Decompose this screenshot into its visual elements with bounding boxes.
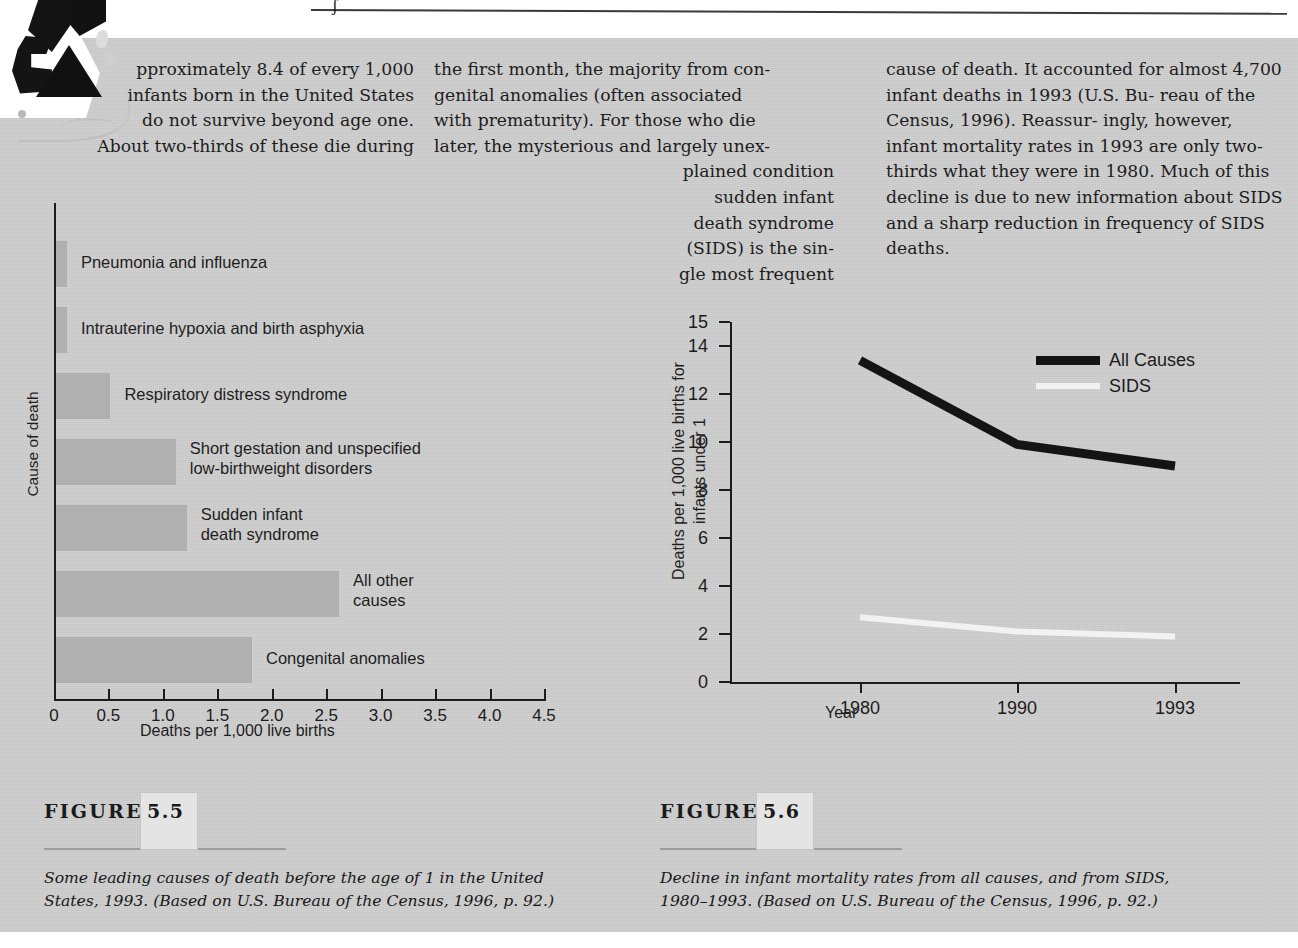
- body-line: cause of death. It accounted for almost: [886, 59, 1227, 79]
- line-chart-y-tick: [719, 441, 730, 443]
- line-chart-y-tick-label: 0: [698, 672, 708, 693]
- bar-chart-x-tick: [163, 689, 165, 701]
- body-column-3: cause of death. It accounted for almost …: [886, 57, 1286, 262]
- bar-chart-category-label-line: Intrauterine hypoxia and birth asphyxia: [81, 318, 364, 338]
- bar-chart-bar-row: Intrauterine hypoxia and birth asphyxia: [56, 307, 546, 353]
- figure-5-6-caption-block: FIGURE 5.6 Decline in infant mortality r…: [660, 800, 1200, 913]
- page-bottom-white-band: [0, 932, 1298, 948]
- line-chart-y-tick-label: 6: [698, 528, 708, 549]
- bar-chart-bar: [56, 373, 110, 419]
- line-chart-y-tick: [719, 393, 730, 395]
- line-chart-y-tick: [719, 489, 730, 491]
- line-chart-y-axis-label: Deaths per 1,000 live births for infants…: [668, 326, 710, 616]
- line-chart-y-tick: [719, 681, 730, 683]
- figure-5-5-caption-text: Some leading causes of death before the …: [44, 867, 564, 913]
- bar-chart-x-tick-label: 4.5: [532, 706, 556, 726]
- page-top-white-band: ʃ: [0, 0, 1298, 38]
- line-chart-x-axis-label: Year: [825, 704, 857, 722]
- figure-5-5-caption-block: FIGURE 5.5 Some leading causes of death …: [44, 800, 564, 913]
- bar-chart-x-tick-label: 0.5: [97, 706, 121, 726]
- figure-5-6-caption-text: Decline in infant mortality rates from a…: [660, 867, 1200, 913]
- bar-chart-x-axis-label: Deaths per 1,000 live births: [140, 722, 335, 740]
- figure-tag-number: 5.6: [763, 800, 800, 822]
- line-chart-y-tick-label: 12: [688, 384, 708, 405]
- line-chart-y-axis-label-line: Deaths per 1,000 live births for: [668, 326, 689, 616]
- line-chart-y-tick: [719, 345, 730, 347]
- body-line: do not survive beyond age one.: [22, 108, 414, 134]
- bar-chart-category-label-line: Congenital anomalies: [266, 648, 425, 668]
- bar-chart-x-tick: [326, 689, 328, 701]
- bar-chart-category-label: Respiratory distress syndrome: [124, 384, 347, 404]
- bar-chart-bar: [56, 307, 67, 353]
- line-chart-y-tick: [719, 537, 730, 539]
- bar-chart-bar: [56, 505, 187, 551]
- line-chart-y-tick-label: 8: [698, 480, 708, 501]
- bar-chart-category-label: Sudden infantdeath syndrome: [201, 504, 319, 544]
- line-chart-y-tick: [719, 585, 730, 587]
- bar-chart-bar: [56, 241, 67, 287]
- bar-chart-x-tick-label: 4.0: [478, 706, 502, 726]
- figure-5-5-chart: Cause of death Pneumonia and influenzaIn…: [10, 185, 595, 745]
- bar-chart-category-label-line: Pneumonia and influenza: [81, 252, 267, 272]
- legend-swatch-sids: [1036, 383, 1100, 389]
- bar-chart-bar-row: Sudden infantdeath syndrome: [56, 505, 546, 551]
- bar-chart-category-label-line: low-birthweight disorders: [190, 458, 421, 478]
- line-chart-x-tick-label: 1990: [997, 698, 1037, 719]
- body-column-1: pproximately 8.4 of every 1,000 infants …: [22, 57, 414, 159]
- legend-item: All Causes: [1036, 347, 1195, 373]
- line-chart-series-sids: [860, 617, 1175, 636]
- bar-chart-bar-row: Short gestation and unspecifiedlow-birth…: [56, 439, 546, 485]
- figure-5-5-tag: FIGURE 5.5: [44, 800, 564, 844]
- line-chart-y-tick-label: 2: [698, 624, 708, 645]
- bar-chart-category-label-line: causes: [353, 590, 414, 610]
- line-chart-y-axis-label-line: infants under 1: [689, 326, 710, 616]
- body-line: and a sharp reduction in frequency of: [886, 213, 1215, 233]
- bar-chart-bar: [56, 571, 339, 617]
- bar-chart-category-label-line: Short gestation and unspecified: [190, 438, 421, 458]
- figure-5-6-chart: Deaths per 1,000 live births for infants…: [620, 300, 1280, 750]
- line-chart-y-tick-label: 4: [698, 576, 708, 597]
- bar-chart-category-label: Pneumonia and influenza: [81, 252, 267, 272]
- body-line: the first month, the majority from con-: [434, 57, 834, 83]
- line-chart-y-tick-label: 15: [688, 312, 708, 333]
- bar-chart-x-axis: [54, 699, 544, 701]
- bar-chart-x-tick: [381, 689, 383, 701]
- legend-swatch-all-causes: [1036, 356, 1100, 365]
- body-line: infants born in the United States: [22, 83, 414, 109]
- bar-chart-category-label: Congenital anomalies: [266, 648, 425, 668]
- legend-label: All Causes: [1109, 350, 1195, 371]
- bar-chart-category-label: Short gestation and unspecifiedlow-birth…: [190, 438, 421, 478]
- bar-chart-x-tick: [544, 689, 546, 701]
- bar-chart-bar: [56, 439, 176, 485]
- bar-chart-category-label-line: All other: [353, 570, 414, 590]
- line-chart-y-tick-label: 10: [688, 432, 708, 453]
- legend-label: SIDS: [1109, 376, 1151, 397]
- header-scan-mark: ʃ: [332, 0, 341, 12]
- body-line: About two-thirds of these die during: [22, 134, 414, 160]
- line-chart-plot-area: 0246810121415 198019901993 All Causes SI…: [730, 322, 1240, 684]
- bar-chart-category-label: All othercauses: [353, 570, 414, 610]
- bar-chart-x-tick: [490, 689, 492, 701]
- line-chart-x-tick-label: 1993: [1155, 698, 1195, 719]
- bar-chart-x-tick: [435, 689, 437, 701]
- legend-item: SIDS: [1036, 373, 1195, 399]
- bar-chart-bar-row: Congenital anomalies: [56, 637, 546, 683]
- bar-chart-bar-row: All othercauses: [56, 571, 546, 617]
- header-rule: [311, 9, 1287, 15]
- bar-chart-category-label-line: Sudden infant: [201, 504, 319, 524]
- bar-chart-x-tick: [272, 689, 274, 701]
- line-chart-legend: All Causes SIDS: [1036, 347, 1195, 399]
- bar-chart-y-axis-label: Cause of death: [24, 359, 42, 529]
- bar-chart-category-label-line: death syndrome: [201, 524, 319, 544]
- bar-chart-plot-area: Pneumonia and influenzaIntrauterine hypo…: [54, 203, 554, 701]
- bar-chart-bar: [56, 637, 252, 683]
- body-line: genital anomalies (often associated: [434, 83, 834, 109]
- line-chart-y-tick-label: 14: [688, 336, 708, 357]
- figure-5-6-tag: FIGURE 5.6: [660, 800, 1200, 844]
- bar-chart-x-tick-label: 3.0: [369, 706, 393, 726]
- line-chart-y-tick: [719, 633, 730, 635]
- line-chart-y-tick: [719, 321, 730, 323]
- body-line: with prematurity). For those who die: [434, 108, 834, 134]
- bar-chart-x-tick: [217, 689, 219, 701]
- body-line: later, the mysterious and largely unex-: [434, 134, 834, 160]
